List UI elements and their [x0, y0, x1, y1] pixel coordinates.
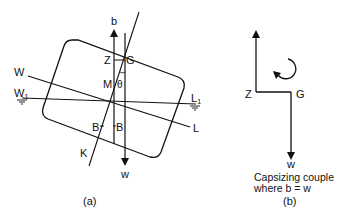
label-Z-b: Z — [245, 88, 252, 100]
label-B1: B — [92, 121, 99, 133]
label-L1: L1 — [191, 92, 201, 105]
label-Z: Z — [104, 54, 111, 66]
label-M: M — [103, 78, 112, 90]
caption-b: (b) — [283, 195, 296, 207]
caption-a: (a) — [83, 195, 96, 207]
panel-a: b w Z G M θ W W1 L L1 B B K (a) — [14, 12, 201, 207]
label-W: W — [14, 66, 25, 78]
waterline-symbol-L1 — [190, 106, 200, 110]
label-b: b — [111, 15, 117, 27]
theta-arc — [120, 72, 125, 73]
label-G-b: G — [296, 88, 305, 100]
label-G: G — [126, 54, 135, 66]
rotation-arrow-icon — [278, 59, 296, 79]
waterline-symbol-W1 — [17, 100, 27, 104]
stability-diagram: b w Z G M θ W W1 L L1 B B K (a) Z G w Ca… — [0, 0, 351, 216]
rotation-arrowhead — [273, 71, 281, 79]
label-K: K — [80, 147, 88, 159]
panel-b: Z G w Capsizing couple where b = w (b) — [245, 34, 334, 207]
label-B: B — [116, 121, 123, 133]
label-theta: θ — [117, 79, 123, 90]
note-line2: where b = w — [253, 182, 311, 194]
label-w-b: w — [286, 158, 295, 170]
label-W1: W1 — [14, 87, 28, 100]
label-L: L — [193, 122, 199, 134]
label-w: w — [120, 168, 129, 180]
